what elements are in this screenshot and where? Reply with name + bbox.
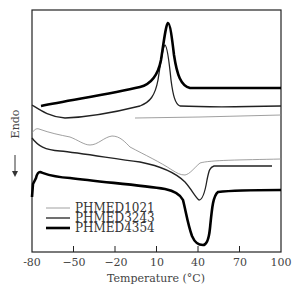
curve-phmed1021-cooling [135, 115, 281, 118]
curve-phmed4354-heating [32, 172, 281, 245]
x-tick-label: 10 [150, 256, 164, 269]
endo-down-arrow-icon [12, 155, 18, 177]
x-tick-labels: -80 −50 −20 10 40 70 100 [23, 256, 291, 269]
legend-label: PHMED4354 [75, 221, 155, 235]
curve-phmed4354-cooling [41, 23, 281, 106]
x-tick-label: -80 [23, 256, 41, 269]
y-axis-title: Endo [9, 109, 22, 138]
x-axis-title: Temperature (°C) [107, 272, 205, 285]
x-axis-ticks [74, 246, 240, 252]
x-tick-label: 100 [271, 256, 292, 269]
dsc-chart: -80 −50 −20 10 40 70 100 Temperature (°C… [0, 0, 302, 294]
legend: PHMED1021 PHMED3243 PHMED4354 [46, 201, 155, 235]
x-tick-label: −50 [62, 256, 85, 269]
x-tick-label: 70 [233, 256, 247, 269]
legend-item-phmed4354: PHMED4354 [46, 221, 155, 235]
curve-phmed3243-cooling [32, 45, 281, 118]
x-tick-label: 40 [191, 256, 205, 269]
x-tick-label: −20 [104, 256, 127, 269]
plot-frame [32, 10, 281, 252]
